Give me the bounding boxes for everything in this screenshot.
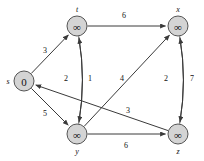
node-value-z: ∞ xyxy=(174,129,182,141)
nodes-layer: 0s∞t∞x∞y∞z xyxy=(6,5,188,156)
graph-node-y[interactable]: ∞y xyxy=(67,124,87,156)
edge-weight-s-t: 3 xyxy=(43,46,47,55)
graph-canvas: 3562146273 0s∞t∞x∞y∞z xyxy=(0,0,204,161)
edge-weight-z-x: 7 xyxy=(190,74,194,83)
edge-weight-y-x: 4 xyxy=(120,74,124,83)
graph-edge-z-s xyxy=(36,85,168,131)
graph-figure: 3562146273 0s∞t∞x∞y∞z xyxy=(0,0,204,161)
edge-weight-t-y: 2 xyxy=(64,74,68,83)
node-label-s: s xyxy=(6,77,9,86)
node-label-x: x xyxy=(175,5,180,14)
edges-layer xyxy=(31,26,183,134)
node-value-x: ∞ xyxy=(174,21,182,33)
edge-weight-t-x: 6 xyxy=(122,11,126,20)
node-value-s: 0 xyxy=(21,76,27,88)
graph-edge-z-x xyxy=(180,38,184,123)
graph-node-s[interactable]: 0s xyxy=(6,71,34,91)
edge-weight-z-s: 3 xyxy=(126,106,130,115)
graph-node-z[interactable]: ∞z xyxy=(168,124,188,156)
edge-weight-y-t: 1 xyxy=(88,74,92,83)
node-label-z: z xyxy=(175,147,180,156)
node-label-y: y xyxy=(74,147,79,156)
graph-edge-y-t xyxy=(79,38,83,123)
edge-weight-s-y: 5 xyxy=(43,109,47,118)
graph-edge-s-t xyxy=(31,35,68,73)
edge-weight-x-z: 2 xyxy=(164,74,168,83)
edge-weight-y-z: 6 xyxy=(124,141,128,150)
node-value-t: ∞ xyxy=(73,21,81,33)
node-value-y: ∞ xyxy=(73,129,81,141)
graph-node-x[interactable]: ∞x xyxy=(168,5,188,37)
graph-node-t[interactable]: ∞t xyxy=(67,5,87,37)
node-label-t: t xyxy=(76,5,79,14)
